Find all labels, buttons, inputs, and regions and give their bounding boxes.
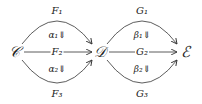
two-cell-beta1: β₁⇓ [134,31,150,40]
object-E: ℰ [181,45,190,60]
label-G2: G₂ [135,47,149,57]
two-cell-alpha1: α₁⇓ [48,31,65,40]
label-G1: G₁ [135,6,149,16]
commutative-diagram: 𝒞 𝒟 ℰ F₁ F₂ F₃ G₁ G₂ G₃ α₁⇓ α₂⇓ β₁⇓ β₂⇓ [0,0,202,104]
label-F2: F₂ [51,47,64,57]
label-G3: G₃ [135,89,149,99]
two-cell-alpha2: α₂⇓ [48,65,65,74]
two-cell-beta2: β₂⇓ [134,65,150,74]
object-C: 𝒞 [9,45,20,60]
label-F3: F₃ [51,89,64,99]
object-D: 𝒟 [94,45,106,60]
label-F1: F₁ [51,6,64,16]
